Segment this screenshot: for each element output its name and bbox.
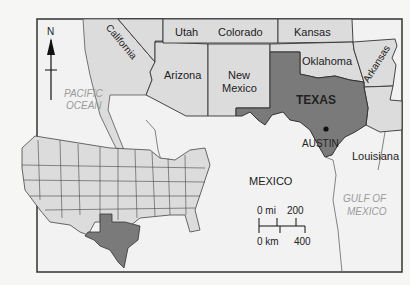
label-utah: Utah [175,26,198,38]
label-texas: TEXAS [296,94,336,106]
compass-label: N [47,26,54,38]
label-austin: AUSTIN [302,138,339,150]
label-new-mexico-line1: New [228,69,250,81]
label-arizona: Arizona [164,69,201,81]
label-gulf-line2: MEXICO [347,206,386,218]
scale-mi-start: 0 mi [257,205,276,217]
austin-marker [323,126,328,131]
label-pacific-line2: OCEAN [66,100,102,112]
label-new-mexico-line2: Mexico [222,82,257,94]
label-colorado: Colorado [218,26,263,38]
label-pacific-line1: PACIFIC [64,88,103,100]
label-mexico-country: MEXICO [249,175,292,187]
map-canvas [0,0,410,285]
scale-mi-end: 200 [287,205,304,217]
scale-km-end: 400 [294,236,311,248]
label-oklahoma: Oklahoma [302,55,352,67]
label-louisiana: Louisiana [352,150,399,162]
label-gulf-line1: GULF OF [343,193,386,205]
label-kansas: Kansas [294,26,331,38]
scale-km-start: 0 km [257,236,279,248]
